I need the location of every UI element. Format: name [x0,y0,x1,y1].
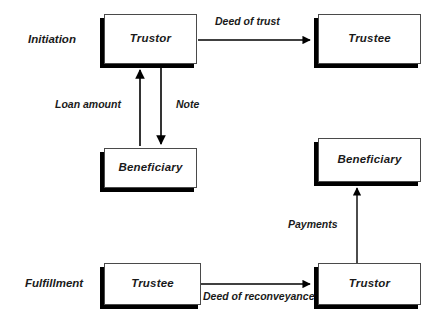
edge-label-deed-of-reconveyance: Deed of reconveyance [203,290,314,302]
edge-label-deed-of-trust: Deed of trust [215,15,280,27]
deed-of-trust-diagram: Initiation Fulfillment Trustor Trustee B… [0,0,428,320]
edge-label-loan-amount: Loan amount [55,98,121,110]
node-trustor-top[interactable]: Trustor [104,14,197,64]
node-beneficiary-right-label: Beneficiary [337,154,401,166]
edge-label-note: Note [176,98,199,110]
node-trustee-top-label: Trustee [348,33,391,45]
stage-label-fulfillment: Fulfillment [25,277,83,289]
edge-label-payments: Payments [288,218,338,230]
stage-label-initiation: Initiation [28,33,76,45]
node-trustee-top[interactable]: Trustee [318,14,421,64]
node-trustor-bottom[interactable]: Trustor [318,263,421,305]
node-trustee-bottom-label: Trustee [131,278,174,290]
node-beneficiary-right[interactable]: Beneficiary [318,138,421,182]
node-beneficiary-left[interactable]: Beneficiary [104,148,197,188]
node-trustor-bottom-label: Trustor [349,278,390,290]
node-trustee-bottom[interactable]: Trustee [104,263,201,305]
node-trustor-top-label: Trustor [130,33,171,45]
node-beneficiary-left-label: Beneficiary [118,162,182,174]
